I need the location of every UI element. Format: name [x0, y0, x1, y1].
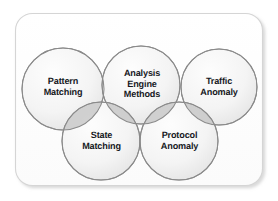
- diagram-canvas: Pattern Matching Analysis Engine Methods…: [0, 0, 278, 201]
- venn-diagram-graphic: [0, 0, 278, 201]
